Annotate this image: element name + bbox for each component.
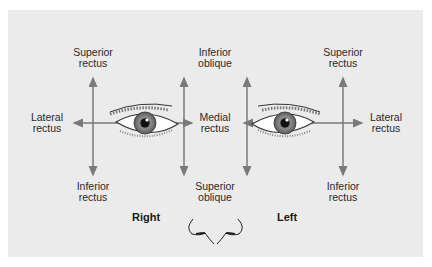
right-inferior-rectus-label: Inferior rectus <box>58 181 128 203</box>
label-line: oblique <box>180 192 250 203</box>
left-inferior-rectus-label: Inferior rectus <box>308 181 378 203</box>
label-line: rectus <box>351 123 421 134</box>
medial-rectus-label: Medial rectus <box>180 112 250 134</box>
right-eye-icon <box>110 104 178 136</box>
label-line: rectus <box>58 192 128 203</box>
left-side-label: Left <box>277 211 297 223</box>
nose-icon <box>189 219 243 244</box>
left-superior-rectus-label: Superior rectus <box>308 47 378 69</box>
label-line: rectus <box>308 58 378 69</box>
right-side-label: Right <box>132 211 160 223</box>
label-line: rectus <box>58 58 128 69</box>
left-eye-icon <box>252 104 320 136</box>
right-lateral-rectus-label: Lateral rectus <box>12 112 82 134</box>
label-line: oblique <box>180 58 250 69</box>
superior-oblique-label: Superior oblique <box>180 181 250 203</box>
label-line: rectus <box>180 123 250 134</box>
label-line: rectus <box>308 192 378 203</box>
left-lateral-rectus-label: Lateral rectus <box>351 112 421 134</box>
label-line: rectus <box>12 123 82 134</box>
right-superior-rectus-label: Superior rectus <box>58 47 128 69</box>
inferior-oblique-label: Inferior oblique <box>180 47 250 69</box>
